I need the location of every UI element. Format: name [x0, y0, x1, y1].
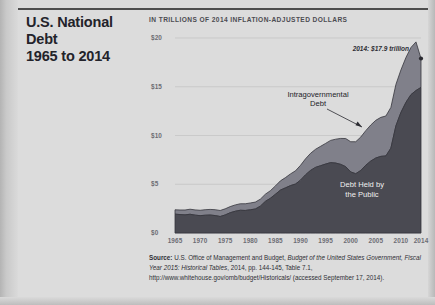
annotation-intragovernmental: Intragovernmental Debt [277, 90, 359, 109]
x-axis-tick-label: 2005 [363, 237, 389, 244]
annotation-public-debt-line-2: the Public [325, 190, 399, 200]
y-axis-tick-label: $15 [151, 83, 162, 90]
x-axis-tick-label: 1980 [237, 237, 263, 244]
y-axis-tick-label: $5 [151, 180, 158, 187]
page-bottom-shadow [0, 297, 435, 305]
annotation-peak-value: 2014: $17.9 trillion [299, 45, 409, 53]
x-axis-tick-label: 1975 [212, 237, 238, 244]
x-axis-tick-label: 1995 [313, 237, 339, 244]
page-left-shadow [0, 0, 18, 305]
x-axis-tick-label: 1965 [162, 237, 188, 244]
header-rule [18, 8, 428, 10]
chart-plot [149, 30, 425, 245]
annotation-public-debt: Debt Held by the Public [325, 180, 399, 200]
y-axis-tick-label: $10 [151, 132, 162, 139]
x-axis-tick-label: 1985 [262, 237, 288, 244]
source-note: Source: U.S. Office of Management and Bu… [149, 253, 421, 282]
page-title-line-1: U.S. National Debt [26, 14, 146, 48]
page-title-line-2: 1965 to 2014 [26, 48, 146, 65]
page-title: U.S. National Debt 1965 to 2014 [26, 14, 146, 65]
source-text-1: U.S. Office of Management and Budget, [172, 254, 287, 261]
y-axis-tick-label: $20 [151, 34, 162, 41]
page-right-shadow [428, 0, 435, 305]
annotation-intragovernmental-line-2: Debt [277, 99, 359, 108]
annotation-intragovernmental-line-1: Intragovernmental [277, 90, 359, 99]
area-series [175, 42, 421, 233]
x-axis-tick-label: 1970 [187, 237, 213, 244]
x-axis-tick-label: 2014 [408, 237, 434, 244]
source-label: Source: [149, 254, 172, 261]
y-axis-tick-label: $0 [151, 229, 158, 236]
annotation-leader-arrowhead [356, 121, 363, 127]
annotation-public-debt-line-1: Debt Held by [325, 180, 399, 190]
infographic-page: U.S. National Debt 1965 to 2014 IN TRILL… [0, 0, 435, 305]
peak-marker-dot [419, 56, 423, 60]
x-axis-tick-label: 2000 [338, 237, 364, 244]
x-axis-tick-label: 1990 [288, 237, 314, 244]
chart: $0$5$10$15$20 19651970197519801985199019… [149, 30, 425, 245]
chart-subtitle: IN TRILLIONS OF 2014 INFLATION-ADJUSTED … [149, 16, 419, 23]
